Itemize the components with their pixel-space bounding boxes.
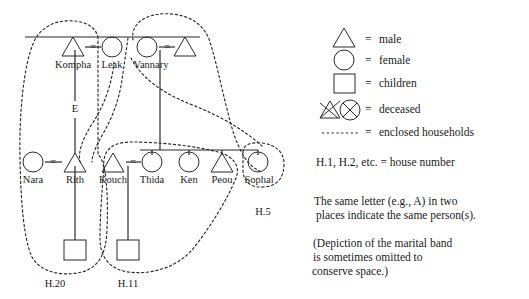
legend-label-female: female [379,54,410,66]
legend-label-household: enclosed households [379,126,474,138]
person-label-peou: Peou [212,174,234,185]
person-label-thida: Thida [140,174,165,185]
legend: = male = female = children = deceased [316,28,474,169]
note-same-letter-line1: The same letter (e.g., A) in two [314,195,458,208]
person-label-ken: Ken [180,174,198,185]
legend-crossed-shapes-icon [320,100,360,120]
marriage-mark-nara-rith: = [50,155,56,167]
link-letter-e: E [72,103,78,114]
legend-equals-male: = [365,33,372,45]
person-symbols [23,37,268,260]
legend-label-children: children [379,77,417,89]
legend-label-male: male [379,33,401,45]
person-label-vannary: Vannary [134,59,170,70]
notes: The same letter (e.g., A) in two places … [312,195,476,278]
legend-equals-deceased: = [365,103,372,115]
legend-triangle-icon [333,28,355,47]
person-symbol-child-h20-square-icon[interactable] [64,240,86,260]
person-symbol-nara-circle-icon[interactable] [23,152,43,172]
marriage-mark-kompha-leak: = [90,40,96,52]
household-enclosures [20,14,284,274]
person-label-leak: Leak [102,59,124,70]
household-label-h5: H.5 [255,206,270,217]
genealogy-figure: = = = = Kompha Leak Vannary Nara Rith Ko… [0,0,529,299]
household-label-h11: H.11 [118,278,138,289]
marriage-mark-kouch-thida: = [130,155,136,167]
legend-equals-children: = [365,77,372,89]
note-same-letter-line2: places indicate the same person(s). [316,209,476,222]
legend-equals-female: = [365,54,372,66]
legend-house-number-note: H.1, H.2, etc. = house number [316,156,455,169]
person-symbol-peou-triangle-icon[interactable] [211,153,233,172]
person-symbol-kouch-triangle-icon[interactable] [102,153,124,172]
legend-square-icon [334,74,355,93]
kinship-diagram-root: = = = = Kompha Leak Vannary Nara Rith Ko… [0,0,529,299]
person-label-sophal: Sophal [244,174,273,185]
person-label-kouch: Kouch [99,174,128,185]
person-symbol-child-h11-square-icon[interactable] [117,240,139,260]
person-symbol-vannary-circle-icon[interactable] [137,37,157,57]
person-labels: Kompha Leak Vannary Nara Rith Kouch Thid… [23,59,274,185]
person-symbol-spouse1-triangle-icon[interactable] [174,37,196,56]
person-label-kompha: Kompha [55,59,92,70]
legend-circle-icon [334,50,354,70]
person-symbol-kompha-triangle-icon[interactable] [62,37,84,56]
note-marital-band-line3: conserve space.) [312,265,388,278]
person-label-nara: Nara [23,174,44,185]
household-curve-mid-left [80,62,115,162]
note-marital-band-line2: is sometimes omitted to [313,251,423,263]
marriage-mark-vannary-spouse: = [164,40,170,52]
household-labels: H.20 H.11 H.5 [45,206,271,289]
household-curve-vannary-descent [131,58,262,146]
household-label-h20: H.20 [45,278,66,289]
person-label-rith: Rith [66,174,85,185]
legend-equals-household: = [365,126,372,138]
person-symbol-leak-circle-icon[interactable] [102,37,122,57]
legend-label-deceased: deceased [379,103,421,115]
note-marital-band-line1: (Depiction of the marital band [313,237,452,250]
